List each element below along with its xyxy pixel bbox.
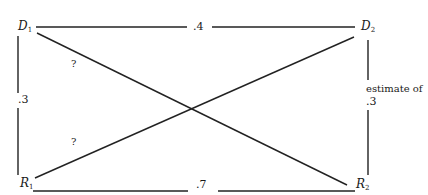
edge-r1-d2-label: ? [71, 136, 76, 148]
node-r1-letter: R [20, 176, 29, 190]
node-r1-subscript: 1 [29, 183, 33, 191]
edge-d1-r1-label: .3 [18, 94, 29, 106]
edge-r1-d2-diagonal [35, 37, 354, 178]
node-d2: D2 [361, 20, 375, 36]
node-r1: R1 [20, 177, 34, 193]
edge-d1-r2-label: ? [71, 58, 76, 70]
edge-d2-r2-label-line1: estimate of [366, 83, 423, 95]
edge-r1-r2-label: .7 [196, 179, 207, 191]
edge-d1-d2-label: .4 [193, 21, 204, 33]
node-d1-subscript: 1 [28, 26, 32, 34]
node-d2-letter: D [361, 19, 371, 33]
node-r2-subscript: 2 [365, 184, 369, 192]
node-r2-letter: R [356, 177, 365, 191]
node-d1: D1 [18, 20, 32, 36]
node-d1-letter: D [18, 19, 28, 33]
node-d2-subscript: 2 [371, 26, 375, 34]
edge-d2-r2-label-line2: .3 [366, 96, 377, 108]
node-r2: R2 [356, 178, 370, 194]
